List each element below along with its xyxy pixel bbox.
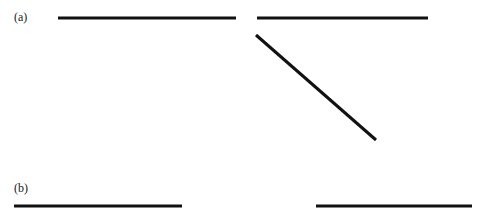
panel-a-lines <box>58 18 428 140</box>
diagram-canvas <box>0 0 482 219</box>
panel-a-diagonal-line <box>256 35 376 140</box>
